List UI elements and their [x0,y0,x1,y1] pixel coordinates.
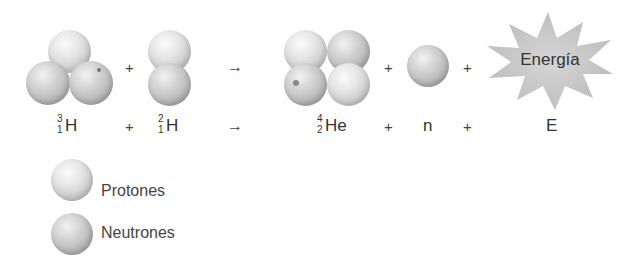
legend-label: Neutrones [101,224,175,242]
plus-sign: + [384,59,393,76]
proton-swatch [51,159,93,201]
plus-sign: + [463,118,472,135]
element-symbol: H [65,116,77,136]
element-symbol: H [166,116,178,136]
proton-ball [327,63,370,106]
energy-label: Energía [485,50,615,70]
atomic-number: 1 [158,124,164,135]
legend-label: Protones [101,182,165,200]
neutron-swatch [51,213,93,255]
nucleus-spot [293,80,299,86]
neutron-symbol: n [423,116,432,136]
free-neutron-ball [407,45,449,87]
arrow: → [227,58,243,76]
plus-sign: + [463,59,472,76]
plus-sign: + [125,59,134,76]
mass-number: 4 [317,113,323,124]
mass-number: 2 [158,113,164,124]
arrow: → [227,117,243,135]
neutron-ball [26,61,70,105]
nucleus-spot [97,68,101,72]
energy-symbol: E [546,116,557,136]
neutron-ball [69,61,113,105]
plus-sign: + [384,118,393,135]
mass-number: 3 [57,113,63,124]
atomic-number: 2 [317,124,323,135]
neutron-ball [284,63,327,106]
energy-burst: Energía [485,8,615,112]
atomic-number: 1 [57,124,63,135]
plus-sign: + [125,118,134,135]
neutron-ball [148,63,191,106]
element-symbol: He [325,116,347,136]
